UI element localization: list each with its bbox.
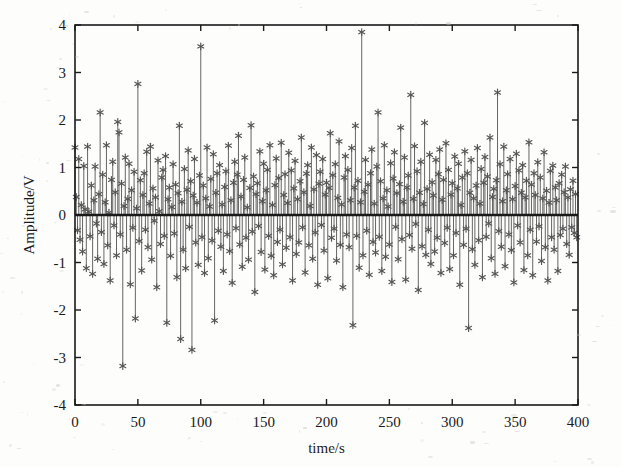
asterisk-marker [247, 185, 253, 192]
asterisk-marker [298, 134, 304, 141]
asterisk-marker [109, 176, 115, 183]
asterisk-marker [273, 155, 279, 162]
asterisk-marker [262, 266, 268, 273]
asterisk-marker [280, 261, 286, 268]
asterisk-marker [525, 252, 531, 259]
asterisk-marker [204, 144, 210, 151]
asterisk-marker [443, 140, 449, 147]
asterisk-marker [381, 142, 387, 149]
asterisk-marker [472, 261, 478, 268]
asterisk-marker [570, 177, 576, 184]
asterisk-marker [145, 244, 151, 251]
asterisk-marker [346, 244, 352, 251]
asterisk-marker [132, 315, 138, 322]
asterisk-marker [447, 266, 453, 273]
asterisk-marker [163, 153, 169, 160]
asterisk-marker [512, 183, 518, 190]
asterisk-marker [492, 271, 498, 278]
asterisk-marker [501, 143, 507, 150]
asterisk-marker [539, 258, 545, 265]
asterisk-marker [389, 279, 395, 286]
y-tick-label: 1 [59, 160, 67, 176]
asterisk-marker [90, 271, 96, 278]
asterisk-marker [282, 171, 288, 178]
asterisk-marker [303, 170, 309, 177]
asterisk-marker [166, 184, 172, 191]
asterisk-marker [408, 91, 414, 98]
asterisk-marker [438, 270, 444, 277]
asterisk-marker [517, 239, 523, 246]
asterisk-marker [225, 142, 231, 149]
asterisk-marker [97, 109, 103, 116]
asterisk-marker [530, 272, 536, 279]
asterisk-marker [456, 160, 462, 167]
asterisk-marker [383, 253, 389, 260]
asterisk-marker [526, 139, 532, 146]
asterisk-marker [155, 157, 161, 164]
asterisk-marker [261, 160, 267, 167]
asterisk-marker [101, 261, 107, 268]
asterisk-marker [541, 149, 547, 156]
asterisk-marker [170, 161, 176, 168]
asterisk-marker [502, 263, 508, 270]
asterisk-marker [478, 166, 484, 173]
asterisk-marker [306, 242, 312, 249]
asterisk-marker [488, 255, 494, 262]
asterisk-marker [131, 168, 137, 175]
asterisk-marker [158, 241, 164, 248]
asterisk-marker [396, 181, 402, 188]
asterisk-marker [258, 249, 264, 256]
asterisk-marker [135, 81, 141, 88]
asterisk-marker [332, 161, 338, 168]
x-tick-label: 400 [567, 414, 590, 430]
asterisk-marker [423, 252, 429, 259]
asterisk-marker [432, 248, 438, 255]
asterisk-marker [399, 236, 405, 243]
asterisk-marker [310, 255, 316, 262]
asterisk-marker [433, 157, 439, 164]
asterisk-marker [559, 171, 565, 178]
asterisk-marker [388, 160, 394, 167]
asterisk-marker [183, 265, 189, 272]
asterisk-marker [88, 182, 94, 189]
asterisk-marker [286, 149, 292, 156]
asterisk-marker [366, 271, 372, 278]
asterisk-marker [189, 347, 195, 354]
asterisk-marker [422, 119, 428, 126]
asterisk-marker [452, 153, 458, 160]
asterisk-marker [415, 287, 421, 294]
asterisk-marker [302, 269, 308, 276]
asterisk-marker [232, 158, 238, 165]
asterisk-marker [534, 238, 540, 245]
asterisk-marker [391, 149, 397, 156]
asterisk-marker [85, 143, 91, 150]
asterisk-marker [229, 280, 235, 287]
asterisk-marker [379, 268, 385, 275]
asterisk-marker [278, 139, 284, 146]
asterisk-marker [283, 244, 289, 251]
asterisk-marker [398, 124, 404, 131]
x-tick-label: 350 [504, 414, 527, 430]
asterisk-marker [513, 150, 519, 157]
asterisk-marker [327, 130, 333, 137]
asterisk-marker [197, 172, 203, 179]
asterisk-marker [442, 240, 448, 247]
asterisk-marker [127, 281, 133, 288]
asterisk-marker [419, 243, 425, 250]
asterisk-marker [350, 322, 356, 329]
y-tick-label: -1 [54, 255, 67, 271]
asterisk-marker [325, 275, 331, 282]
asterisk-marker [202, 270, 208, 277]
asterisk-marker [181, 166, 187, 173]
asterisk-marker [437, 146, 443, 153]
asterisk-marker [293, 251, 299, 258]
asterisk-marker [198, 43, 204, 50]
asterisk-marker [375, 109, 381, 116]
asterisk-marker [321, 247, 327, 254]
asterisk-marker [222, 184, 228, 191]
asterisk-marker [473, 182, 479, 189]
asterisk-marker [159, 174, 165, 181]
asterisk-marker [341, 174, 347, 181]
asterisk-marker [313, 152, 319, 159]
asterisk-marker [210, 151, 216, 158]
